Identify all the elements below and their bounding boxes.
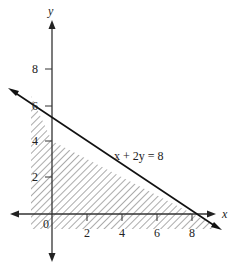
y-tick-label-4: 4 bbox=[32, 134, 38, 148]
x-tick-label-8: 8 bbox=[189, 226, 195, 240]
equation-label: x + 2y = 8 bbox=[114, 149, 164, 163]
y-tick-label-8: 8 bbox=[32, 62, 38, 76]
origin-label: 0 bbox=[43, 217, 49, 231]
x-tick-label-6: 6 bbox=[154, 226, 160, 240]
x-axis-left-arrow-icon bbox=[10, 211, 19, 218]
x-axis-right-arrow-icon bbox=[207, 211, 216, 218]
y-tick-label-2: 2 bbox=[32, 170, 38, 184]
y-tick-label-6: 6 bbox=[32, 99, 38, 113]
x-tick-label-2: 2 bbox=[84, 226, 90, 240]
y-axis-up-arrow-icon bbox=[49, 20, 56, 29]
y-axis-down-arrow-icon bbox=[49, 253, 56, 262]
inequality-graph: y x 0 2 4 6 8 2 4 6 8 x + 2y = 8 bbox=[0, 0, 231, 268]
x-axis-label: x bbox=[221, 207, 228, 221]
y-axis-label: y bbox=[47, 4, 54, 18]
x-tick-label-4: 4 bbox=[119, 226, 125, 240]
